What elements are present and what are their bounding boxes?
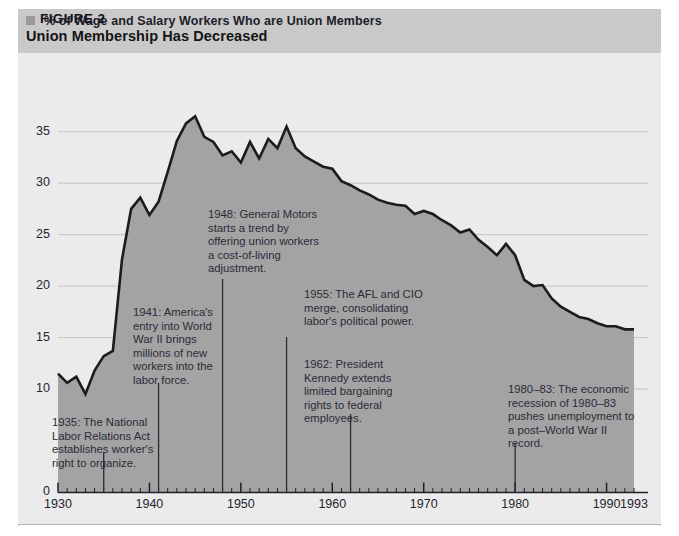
annot-1948: 1948: General Motors starts a trend by o…: [208, 208, 333, 276]
x-tick-label: 1930: [36, 497, 80, 511]
chart-subtitle: % of Wage and Salary Workers Who are Uni…: [44, 14, 382, 28]
annot-1955: 1955: The AFL and CIO merge, consolidati…: [304, 288, 426, 329]
y-tick-label: 25: [16, 227, 50, 241]
figure-title: Union Membership Has Decreased: [26, 28, 268, 44]
annot-1935: 1935: The National Labor Relations Act e…: [52, 416, 172, 470]
x-tick-label: 1980: [493, 497, 537, 511]
annot-1941: 1941: America's entry into World War II …: [133, 306, 237, 388]
y-tick-label: 0: [16, 484, 50, 498]
y-tick-label: 20: [16, 278, 50, 292]
y-tick-label: 10: [16, 381, 50, 395]
x-tick-label: 1940: [127, 497, 171, 511]
annot-1980: 1980–83: The economic recession of 1980–…: [508, 383, 643, 451]
y-tick-label: 15: [16, 330, 50, 344]
x-tick-label: 1993: [612, 497, 656, 511]
figure-container: FIGURE 2 Union Membership Has Decreased …: [0, 0, 679, 536]
x-tick-label: 1970: [402, 497, 446, 511]
y-tick-label: 30: [16, 175, 50, 189]
x-tick-label: 1950: [219, 497, 263, 511]
x-tick-label: 1960: [310, 497, 354, 511]
annot-1962: 1962: President Kennedy extends limited …: [304, 358, 408, 426]
y-tick-label: 35: [16, 124, 50, 138]
square-marker-icon: [26, 16, 35, 25]
